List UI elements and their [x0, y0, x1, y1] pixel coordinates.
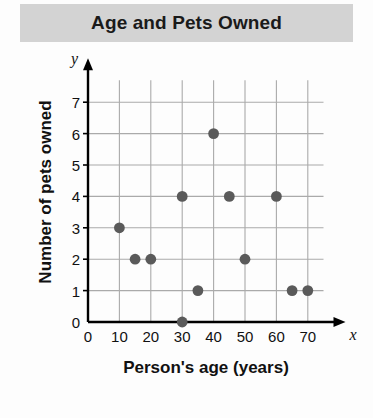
x-tick-label: 40	[205, 328, 222, 345]
x-axis-arrowhead	[334, 317, 346, 327]
data-point	[224, 191, 235, 202]
data-point	[177, 191, 188, 202]
data-point	[271, 191, 282, 202]
data-point	[114, 222, 125, 233]
y-tick-label: 7	[72, 94, 80, 111]
y-tick-label: 2	[72, 251, 80, 268]
y-tick-label: 0	[72, 314, 80, 331]
data-point	[287, 285, 298, 296]
data-point	[177, 317, 188, 328]
data-point	[302, 285, 313, 296]
x-tick-label: 70	[299, 328, 316, 345]
gridlines	[88, 80, 324, 322]
y-axis-arrowhead	[83, 58, 93, 70]
x-axis-variable-symbol: x	[350, 326, 357, 344]
data-point	[240, 254, 251, 265]
plot-svg	[0, 0, 373, 418]
scatter-plot-figure: Age and Pets Owned Number of pets owned …	[0, 0, 373, 418]
x-tick-label: 10	[111, 328, 128, 345]
y-tick-label: 1	[72, 282, 80, 299]
data-point	[193, 285, 204, 296]
y-axis-variable-symbol: y	[71, 50, 78, 68]
data-point	[130, 254, 141, 265]
plot-area: 01234567010203040506070xy	[0, 0, 373, 418]
x-tick-label: 20	[142, 328, 159, 345]
x-tick-label: 0	[84, 328, 92, 345]
data-point	[208, 128, 219, 139]
data-point	[145, 254, 156, 265]
y-tick-label: 5	[72, 157, 80, 174]
y-tick-label: 4	[72, 188, 80, 205]
x-tick-label: 50	[237, 328, 254, 345]
x-tick-label: 60	[268, 328, 285, 345]
y-tick-label: 6	[72, 125, 80, 142]
y-tick-label: 3	[72, 219, 80, 236]
x-tick-label: 30	[174, 328, 191, 345]
